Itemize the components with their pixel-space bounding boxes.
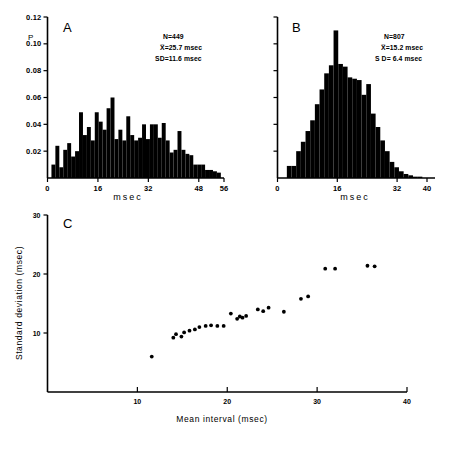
histogram-bar: [329, 65, 334, 178]
histogram-bar: [357, 80, 362, 178]
scatter-point: [241, 316, 245, 320]
figure-panel-container: 0.020.040.060.080.100.12 016324856 A P m…: [0, 0, 451, 458]
histogram-bar: [75, 151, 79, 178]
histogram-bar: [87, 127, 91, 178]
scatter-point: [182, 331, 186, 335]
histogram-bar: [296, 151, 301, 178]
panel-c: 102030 10203040 C Standard deviation (ms…: [14, 212, 411, 424]
panel-a-stat-sd: SD=11.6 msec: [155, 55, 202, 62]
x-tick-label: 0: [275, 184, 279, 193]
panel-c-data-points: [150, 264, 377, 359]
histogram-bar: [59, 167, 63, 178]
y-tick-label: 0.02: [26, 147, 41, 156]
scatter-point: [171, 336, 175, 340]
y-tick-label: 0.06: [26, 93, 41, 102]
panel-c-label: C: [63, 216, 72, 231]
histogram-bar: [146, 139, 150, 178]
panel-a-stat-n: N=449: [163, 33, 184, 40]
histogram-bar: [150, 124, 154, 178]
scatter-point: [306, 295, 310, 299]
histogram-bar: [111, 98, 115, 179]
panel-c-y-axis-label: Standard deviation (msec): [14, 246, 24, 360]
x-tick-label: 0: [45, 184, 49, 193]
scatter-point: [222, 324, 226, 328]
scatter-point: [244, 314, 248, 318]
histogram-bar: [217, 173, 221, 178]
scatter-point: [282, 310, 286, 314]
histogram-bar: [292, 166, 297, 178]
histogram-bar: [122, 140, 126, 178]
histogram-bar: [83, 135, 87, 178]
histogram-bar: [193, 165, 197, 178]
histogram-bar: [114, 139, 118, 178]
histogram-bar: [118, 130, 122, 178]
histogram-bar: [343, 67, 348, 178]
scatter-point: [299, 297, 303, 301]
histogram-bar: [301, 142, 306, 178]
panel-a-bars: [51, 98, 220, 179]
histogram-bar: [362, 95, 367, 178]
scatter-point: [180, 335, 184, 339]
y-tick-label: 0.12: [26, 13, 41, 22]
histogram-bar: [103, 130, 107, 178]
histogram-bar: [189, 155, 193, 178]
y-tick-label: 30: [33, 212, 41, 219]
x-tick-label: 56: [220, 184, 229, 193]
x-tick-label: 30: [313, 398, 321, 405]
panel-c-y-ticks: 102030: [33, 212, 48, 337]
scatter-point: [323, 267, 327, 271]
histogram-bar: [209, 170, 213, 178]
histogram-bar: [315, 104, 320, 178]
histogram-bar: [142, 124, 146, 178]
panel-b-bars: [287, 30, 422, 178]
histogram-bar: [324, 73, 329, 178]
histogram-bar: [310, 120, 315, 178]
histogram-bar: [185, 154, 189, 178]
x-tick-label: 32: [393, 184, 402, 193]
x-tick-label: 32: [144, 184, 153, 193]
scatter-point: [267, 306, 271, 310]
y-tick-label: 0.04: [26, 120, 42, 129]
histogram-bar: [174, 150, 178, 178]
panel-b: 0163240 B msec N=807 X̅=15.2 msec S D= 6…: [274, 17, 436, 202]
histogram-bar: [399, 171, 404, 178]
panel-b-stat-mean: X̅=15.2 msec: [381, 44, 423, 51]
panel-b-x-ticks: 0163240: [275, 178, 431, 193]
histogram-bar: [181, 150, 185, 178]
x-tick-label: 48: [194, 184, 203, 193]
histogram-bar: [130, 135, 134, 178]
histogram-bar: [390, 162, 395, 178]
histogram-bar: [366, 84, 371, 178]
histogram-bar: [134, 140, 138, 178]
y-tick-label: 0.08: [26, 66, 41, 75]
histogram-bar: [67, 143, 71, 178]
panel-a: 0.020.040.060.080.100.12 016324856 A P m…: [26, 13, 228, 202]
scatter-point: [215, 324, 219, 328]
scatter-point: [373, 264, 377, 268]
scatter-point: [204, 324, 208, 328]
scatter-point: [333, 267, 337, 271]
panel-c-x-ticks: 10203040: [133, 387, 411, 405]
histogram-bar: [205, 170, 209, 178]
scatter-point: [193, 328, 197, 332]
histogram-bar: [138, 138, 142, 178]
scatter-point: [188, 329, 192, 333]
histogram-bar: [213, 171, 217, 178]
scatter-point: [174, 332, 178, 336]
x-tick-label: 16: [94, 184, 103, 193]
histogram-bar: [166, 140, 170, 178]
scatter-point: [209, 323, 213, 327]
histogram-bar: [201, 165, 205, 178]
histogram-bar: [51, 165, 55, 178]
scatter-point: [366, 264, 370, 268]
panel-a-x-ticks: 016324856: [45, 178, 228, 193]
histogram-bar: [99, 122, 103, 178]
histogram-bar: [320, 89, 325, 178]
histogram-bar: [79, 112, 83, 178]
histogram-bar: [376, 127, 381, 178]
histogram-bar: [63, 150, 67, 178]
panel-b-stat-n: N=807: [384, 33, 405, 40]
histogram-bar: [352, 79, 357, 178]
histogram-bar: [91, 140, 95, 178]
histogram-bar: [394, 167, 399, 178]
